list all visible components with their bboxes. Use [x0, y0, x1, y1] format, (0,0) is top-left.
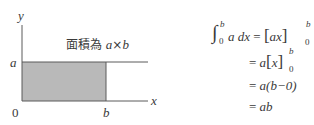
equals-sign: = — [253, 29, 260, 44]
eval-lower-1: 0 — [305, 37, 310, 47]
integral-derivation: ∫ b 0 a dx = [ax] b 0 = a[x] b 0 = a(b−0… — [0, 0, 314, 125]
eval-upper-2: b — [289, 46, 294, 56]
antiderivative: ax — [270, 29, 282, 44]
equals-sign: = — [249, 55, 256, 70]
equation-line-3: = a(b−0) — [249, 79, 297, 92]
equation-line-2: = a[x] — [249, 53, 283, 70]
eval-lower-2: 0 — [289, 64, 294, 74]
expression: a(b−0) — [260, 78, 297, 93]
equals-sign: = — [249, 78, 256, 93]
result: ab — [260, 99, 273, 114]
equation-line-4: = ab — [249, 100, 273, 113]
integrand: a dx — [228, 29, 250, 44]
equation-line-1: a dx = [ax] — [228, 27, 288, 44]
integral-sign: ∫ — [212, 21, 217, 44]
right-bracket: ] — [278, 52, 284, 71]
integral-lower-limit: 0 — [219, 36, 224, 46]
right-bracket: ] — [282, 26, 288, 45]
integral-upper-limit: b — [220, 19, 225, 29]
equals-sign: = — [249, 99, 256, 114]
eval-upper-1: b — [306, 19, 311, 29]
